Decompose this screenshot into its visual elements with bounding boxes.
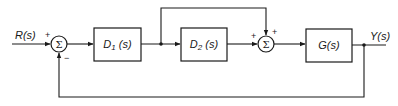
output-label: Y(s) (370, 30, 391, 42)
summing-junction-1: Σ + − (45, 30, 69, 63)
block-diagram: R(s) Σ + − D1 (s) D2 (s) Σ + + G(s) (0, 0, 398, 106)
sum1-plus-sign: + (45, 30, 50, 40)
block-d1: D1 (s) (94, 28, 141, 61)
sum1-minus-sign: − (64, 53, 69, 63)
block-g-label: G(s) (318, 39, 340, 51)
sigma-symbol: Σ (55, 39, 62, 50)
sum2-plus-sign-top: + (272, 27, 277, 37)
block-d1-label: D1 (s) (103, 38, 132, 52)
block-d2: D2 (s) (181, 28, 227, 61)
block-g: G(s) (306, 29, 352, 62)
sigma-symbol: Σ (262, 39, 269, 50)
block-d2-label: D2 (s) (190, 38, 219, 52)
sum2-plus-sign-left: + (251, 31, 256, 41)
output-signal: Y(s) (352, 30, 391, 47)
input-label: R(s) (15, 29, 36, 41)
summing-junction-2: Σ + + (251, 27, 277, 52)
